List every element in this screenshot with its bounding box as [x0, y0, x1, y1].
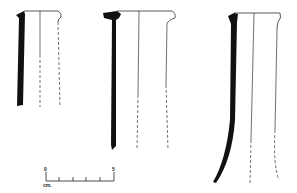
pottery-profiles-figure: 0 5 cm. [0, 0, 297, 193]
vessel-1-profile [16, 11, 61, 107]
scale-unit-label: cm. [43, 182, 52, 188]
vessel-2-profile [103, 11, 175, 150]
scale-bar: 0 5 cm. [43, 166, 115, 188]
scale-start-label: 0 [44, 166, 47, 172]
vessel-3-profile [213, 13, 281, 183]
scale-end-label: 5 [112, 166, 115, 172]
